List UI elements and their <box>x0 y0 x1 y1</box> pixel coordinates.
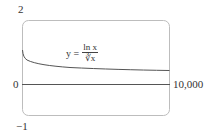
equation-fraction: ln x ∛x <box>82 43 98 63</box>
y-min-label: −1 <box>16 121 28 132</box>
equation-numerator: ln x <box>82 43 98 53</box>
equation-lhs: y = <box>66 48 79 59</box>
x-max-label: 10,000 <box>173 79 203 90</box>
y-max-label: 2 <box>18 4 24 15</box>
viewing-window-frame <box>23 21 170 116</box>
plot-area <box>0 0 211 138</box>
function-equation: y = ln x ∛x <box>66 43 98 63</box>
equation-denominator: ∛x <box>85 53 95 63</box>
x-min-label: 0 <box>13 79 19 90</box>
